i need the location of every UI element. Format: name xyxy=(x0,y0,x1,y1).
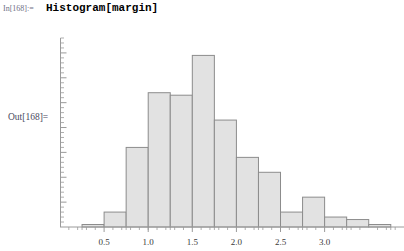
x-axis-tick-label: 2.0 xyxy=(231,237,243,246)
x-axis-tick-label: 0.5 xyxy=(98,237,110,246)
input-cell-code[interactable]: Histogram[margin] xyxy=(46,2,158,14)
histogram-bar[interactable] xyxy=(214,120,236,227)
y-axis: 10203040506070 xyxy=(60,38,67,227)
x-axis-tick-label: 1.5 xyxy=(187,237,199,246)
x-axis-tick-label: 1.0 xyxy=(143,237,155,246)
histogram-bar[interactable] xyxy=(104,212,126,227)
x-axis: 0.51.01.52.02.53.0 xyxy=(60,227,404,246)
histogram-bar[interactable] xyxy=(347,220,369,227)
x-axis-tick-label: 2.5 xyxy=(275,237,287,246)
histogram-bar[interactable] xyxy=(192,55,214,227)
notebook-output-cell: In[168]:= Histogram[margin] Out[168]= 0.… xyxy=(0,0,404,251)
histogram-bar[interactable] xyxy=(281,212,303,227)
histogram-bar[interactable] xyxy=(236,157,258,227)
histogram-bar[interactable] xyxy=(258,172,280,227)
histogram-bar[interactable] xyxy=(148,93,170,227)
histogram-bar[interactable] xyxy=(303,197,325,227)
histogram-bar[interactable] xyxy=(126,147,148,227)
x-axis-tick-label: 3.0 xyxy=(319,237,331,246)
histogram-bar[interactable] xyxy=(170,95,192,227)
histogram-plot[interactable]: 0.51.01.52.02.53.010203040506070 xyxy=(60,28,404,246)
histogram-bar[interactable] xyxy=(325,217,347,227)
output-cell-label: Out[168]= xyxy=(8,112,48,122)
histogram-bars xyxy=(82,55,391,227)
input-cell-label: In[168]:= xyxy=(3,4,34,13)
